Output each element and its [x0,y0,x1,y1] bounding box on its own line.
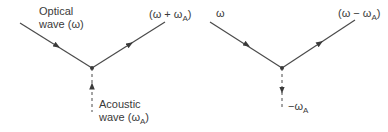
sum-frequency-label: (ω + ωA) [149,8,191,23]
left-diagram-sum-frequency: Optical wave (ω) (ω + ωA) Acoustic wave … [20,5,191,126]
interaction-vertex-dot [90,66,94,70]
optical-label-line2: wave (ω) [38,18,84,30]
incoming-optical-wave-line [210,22,282,68]
negative-acoustic-label: −ωA [288,100,309,115]
outgoing-optical-wave-line [92,22,165,68]
right-diagram-difference-frequency: ω (ω − ωA) −ωA [210,7,380,115]
interaction-vertex-dot [280,66,284,70]
acoustic-label-line2: wave (ωA) [98,111,149,126]
difference-frequency-label: (ω − ωA) [338,7,380,22]
optical-label-line1: Optical [39,5,73,17]
acoustic-label-line1: Acoustic [99,98,141,110]
outgoing-optical-wave-line [282,20,355,68]
phonon-interaction-diagram: Optical wave (ω) (ω + ωA) Acoustic wave … [0,0,388,132]
incoming-frequency-label: ω [216,7,225,19]
